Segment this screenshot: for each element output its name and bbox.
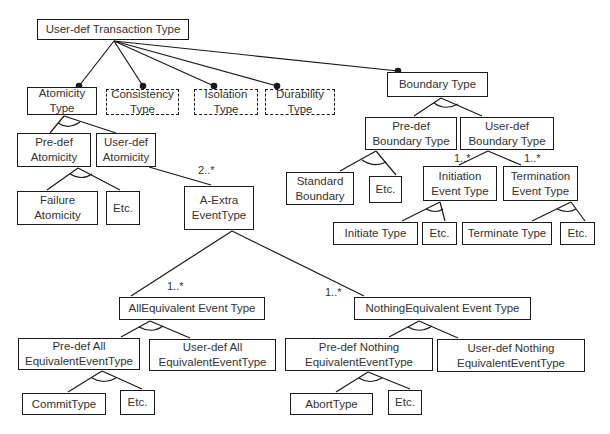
alt-group-arc-predef-atomicity [70, 174, 92, 178]
node-a-extra: A-Extra EventType [184, 186, 254, 230]
node-initiation-etc: Etc. [422, 222, 457, 245]
node-abort-type: AbortType [290, 393, 373, 415]
link-root-boundary [114, 41, 398, 71]
node-atomicity: Atomicity Type [27, 87, 97, 115]
node-all-equivalent: AllEquivalent Event Type [119, 297, 265, 320]
alt-group-arc-termination [557, 209, 576, 212]
node-boundary-etc: Etc. [369, 176, 402, 203]
link-root-atomicity [79, 41, 114, 86]
node-userdef-atomicity: User-def Atomicity [96, 133, 156, 167]
link-atomicity-userdef [64, 116, 116, 133]
node-userdef-all: User-def All EquivalentEventType [149, 339, 276, 371]
node-atomicity-etc: Etc. [106, 191, 140, 225]
link-predefnothing-abort [336, 372, 368, 392]
alt-group-arc-all [139, 326, 163, 330]
node-abort-etc: Etc. [388, 390, 422, 415]
node-isolation: Isolation Type [194, 89, 258, 115]
node-durability: Durability Type [265, 89, 335, 115]
node-root: User-def Transaction Type [37, 19, 189, 40]
link-predefb-etc [376, 151, 396, 175]
node-predef-all: Pre-def All EquivalentEventType [18, 338, 140, 370]
node-failure-atomicity: Failure Atomicity [17, 191, 98, 225]
link-predefall-commit [68, 371, 102, 392]
node-predef-atomicity: Pre-def Atomicity [17, 133, 91, 167]
node-initiate-type: Initiate Type [333, 222, 418, 245]
node-userdef-boundary: User-def Boundary Type [460, 117, 554, 150]
node-commit-type: CommitType [22, 393, 106, 415]
node-userdef-nothing: User-def Nothing EquivalentEventType [437, 339, 585, 372]
node-predef-boundary: Pre-def Boundary Type [365, 117, 457, 150]
node-initiation: Initiation Event Type [423, 166, 497, 201]
multiplicity-label: 2..* [198, 164, 215, 176]
multiplicity-label: 1..* [325, 286, 342, 298]
node-commit-etc: Etc. [120, 390, 155, 415]
alt-group-arc-predef-all [92, 378, 116, 382]
node-nothing-equivalent: NothingEquivalent Event Type [354, 297, 531, 320]
node-standard-boundary: Standard Boundary [286, 172, 354, 205]
node-consistency: Consistency Type [106, 89, 179, 115]
link-predef-etc [78, 168, 120, 190]
node-termination: Termination Event Type [503, 166, 578, 201]
link-predefb-standard [340, 151, 376, 171]
link-userdefb-termination [488, 151, 521, 165]
node-predef-nothing: Pre-def Nothing EquivalentEventType [285, 338, 433, 371]
link-boundary-predef [414, 98, 441, 116]
multiplicity-label: 1..* [524, 152, 541, 164]
alt-group-arc-predef-boundary [362, 160, 386, 165]
link-nothing-predef [389, 321, 419, 337]
link-predefall-etc [102, 371, 142, 389]
node-termination-etc: Etc. [560, 222, 595, 245]
alt-group-arc-predef-nothing [359, 378, 382, 382]
node-boundary: Boundary Type [387, 72, 488, 97]
multiplicity-label: 1..* [454, 152, 471, 164]
link-predef-failure [47, 168, 78, 190]
node-terminate-type: Terminate Type [462, 222, 552, 245]
alt-group-arc-nothing [408, 326, 432, 330]
link-all-predef [121, 321, 150, 337]
alt-group-arc-atomicity [58, 122, 80, 126]
alt-group-arc-initiation [426, 209, 443, 212]
link-initiation-etc [440, 202, 445, 221]
multiplicity-label: 1..* [167, 280, 184, 292]
link-termination-etc [571, 202, 585, 221]
